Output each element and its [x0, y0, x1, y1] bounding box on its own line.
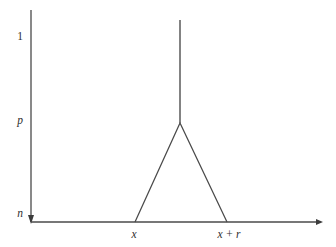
- y-tick-label-n: n: [17, 207, 23, 219]
- x-axis-arrow-icon: [316, 219, 323, 225]
- x-tick-label-x-plus-r: x + r: [216, 228, 241, 240]
- y-tick-label-one: 1: [17, 30, 23, 42]
- y-tick-label-p: p: [16, 114, 23, 127]
- x-tick-label-x: x: [130, 228, 137, 240]
- diagram-canvas: 1 p n x x + r: [0, 0, 336, 247]
- triangle-bump-curve: [135, 123, 227, 222]
- figure-container: 1 p n x x + r: [0, 0, 336, 247]
